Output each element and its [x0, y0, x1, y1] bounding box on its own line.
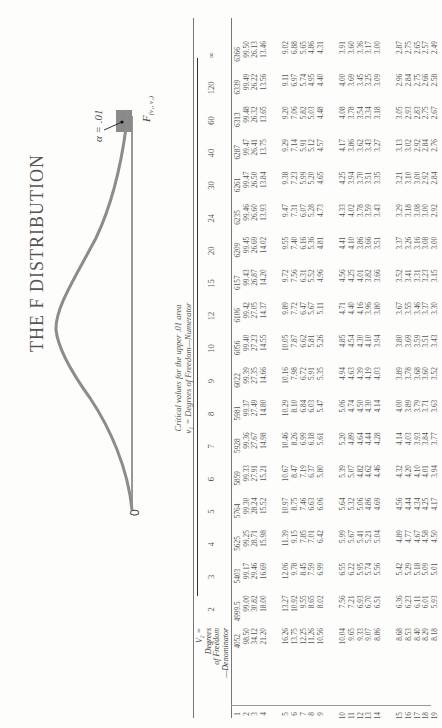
table-cell: 3.09 [374, 74, 382, 108]
table-cell: 4.50 [431, 530, 439, 564]
row-header-line-4: —Denominator [222, 628, 231, 706]
table-cell: 6.70 [365, 595, 373, 629]
table-cell: 5928 [234, 438, 242, 472]
table-cell: 6.88 [291, 41, 299, 75]
table-cell: 4.30 [365, 400, 373, 434]
table-cell: 2.58 [431, 74, 439, 108]
table-cell: 2.92 [422, 172, 430, 206]
alpha-pointer-dot [120, 120, 123, 123]
table-cell: 6.51 [374, 595, 382, 629]
table-cell: 3.94 [348, 172, 356, 206]
column-header-24: 24 [206, 201, 216, 235]
row-label-18: 18 [422, 712, 430, 722]
table-cell: 8.86 [374, 628, 382, 662]
caption-line-2: ν₁ = Degrees of Freedom—Numerator [183, 258, 193, 478]
table-cell: 29.46 [251, 563, 259, 597]
row-label-4: 4 [260, 712, 268, 722]
table-cell: 4.63 [348, 367, 356, 401]
table-cell: 2.67 [431, 106, 439, 140]
table-cell: 2.84 [431, 172, 439, 206]
table-cell: 8.53 [405, 628, 413, 662]
table-cell: 3.66 [365, 237, 373, 271]
table-cell: 4.74 [348, 400, 356, 434]
table-cell: 7.40 [291, 237, 299, 271]
table-cell: 7.21 [348, 595, 356, 629]
table-cell: 13.46 [260, 41, 268, 75]
table-cell: 3.52 [431, 367, 439, 401]
table-cell: 7.87 [291, 335, 299, 369]
table-cell: 4.86 [308, 41, 316, 75]
table-cell: 3.55 [405, 302, 413, 336]
table-cell: 4.19 [365, 367, 373, 401]
table-cell: 8.29 [422, 628, 430, 662]
table-cell: 6056 [234, 341, 242, 375]
table-cell: 4.31 [317, 41, 325, 75]
column-header-9: 9 [206, 364, 216, 398]
table-cell: 2.75 [405, 41, 413, 75]
critical-value-label: F(ν₁, ν₂) [140, 96, 155, 122]
table-cell: 3.43 [365, 139, 373, 173]
table-cell: 14.80 [260, 400, 268, 434]
column-header-8: 8 [206, 397, 216, 431]
table-caption: Critical values for the upper .01 area ν… [173, 258, 193, 478]
table-cell: 2.57 [422, 41, 430, 75]
table-cell: 4.95 [308, 74, 316, 108]
table-cell: 5625 [234, 536, 242, 570]
row-label-13: 13 [365, 712, 373, 722]
table-cell: 6022 [234, 373, 242, 407]
table-cell: 3.30 [431, 302, 439, 336]
table-cell: 5.91 [308, 367, 316, 401]
table-cell: 3.23 [422, 269, 430, 303]
table-cell: 5.52 [308, 269, 316, 303]
table-cell: 13.93 [260, 204, 268, 238]
table-cell: 5981 [234, 406, 242, 440]
table-cell: 6.03 [308, 400, 316, 434]
table-cell: 15.52 [260, 498, 268, 532]
table-cell: 5.47 [317, 400, 325, 434]
table-cell: 3.89 [405, 400, 413, 434]
table-cell: 15.98 [260, 530, 268, 564]
table-cell: 3.94 [431, 465, 439, 499]
table-cell: 5764 [234, 504, 242, 538]
table-cell: 8.02 [317, 595, 325, 629]
table-cell: 14.55 [260, 335, 268, 369]
table-cell: 5.81 [308, 335, 316, 369]
table-cell: 8.26 [291, 432, 299, 466]
table-cell: 3.18 [405, 204, 413, 238]
table-cell: 4.57 [317, 139, 325, 173]
table-cell: 3.77 [431, 432, 439, 466]
table-cell: 26.69 [251, 237, 259, 271]
column-header-2: 2 [206, 592, 216, 626]
table-cell: 3.08 [422, 237, 430, 271]
table-cell: 26.41 [251, 139, 259, 173]
table-cell: 4.89 [348, 432, 356, 466]
column-header-1: 1 [206, 625, 216, 659]
table-cell: 3.51 [422, 335, 430, 369]
table-cell: 7.31 [291, 204, 299, 238]
table-cell: 7.56 [291, 269, 299, 303]
table-cell: 4.62 [365, 465, 373, 499]
table-cell: 3.10 [405, 172, 413, 206]
table-cell: 9.78 [291, 563, 299, 597]
table-cell: 2.75 [422, 106, 430, 140]
table-cell: 5.20 [308, 172, 316, 206]
rejection-region [116, 110, 132, 132]
column-header-120: 120 [206, 71, 216, 105]
table-cell: 14.37 [260, 302, 268, 336]
row-label-14: 14 [374, 712, 382, 722]
table-cell: 5.29 [405, 563, 413, 597]
column-header-10: 10 [206, 332, 216, 366]
table-cell: 4052 [234, 634, 242, 668]
table-cell: 27.91 [251, 465, 259, 499]
table-cell: 5.36 [308, 237, 316, 271]
table-cell: 34.12 [251, 628, 259, 662]
table-cell: 8.10 [291, 400, 299, 434]
table-cell: 4999.5 [234, 601, 242, 635]
table-cell: 10.56 [317, 628, 325, 662]
table-cell: 8.75 [291, 498, 299, 532]
table-cell: 5.21 [365, 530, 373, 564]
table-cell: 5859 [234, 471, 242, 505]
table-cell: 4.96 [317, 269, 325, 303]
table-cell: 4.69 [374, 498, 382, 532]
caption-underline [197, 58, 198, 596]
